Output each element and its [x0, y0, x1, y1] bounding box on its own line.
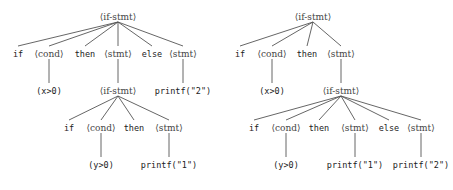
tree-edge — [254, 96, 341, 120]
tree-edge — [319, 96, 341, 120]
tree-edge — [286, 96, 341, 120]
tree-edge — [313, 22, 341, 46]
nonterminal-node: ⟨stmt⟩ — [104, 49, 131, 59]
nonterminal-node: ⟨if-stmt⟩ — [100, 12, 136, 22]
terminal-node: if — [13, 49, 23, 59]
parse-tree-diagram: ⟨if-stmt⟩if⟨cond⟩then⟨stmt⟩else⟨stmt⟩(x>… — [0, 0, 453, 190]
tree-edge — [49, 22, 118, 46]
terminal-node: then — [309, 123, 329, 133]
nonterminal-node: ⟨if-stmt⟩ — [295, 12, 331, 22]
terminal-node: (x>0) — [36, 86, 62, 96]
tree-edges — [18, 22, 421, 157]
tree-edge — [118, 22, 183, 46]
terminal-node: (y>0) — [273, 160, 299, 170]
tree-edge — [18, 22, 118, 46]
terminal-node: else — [379, 123, 399, 133]
terminal-node: else — [142, 49, 162, 59]
nonterminal-node: ⟨cond⟩ — [257, 49, 286, 59]
tree-edge — [272, 22, 313, 46]
nonterminal-node: ⟨stmt⟩ — [407, 123, 434, 133]
terminal-node: printf("2") — [393, 160, 449, 170]
terminal-node: if — [249, 123, 259, 133]
terminal-node: (x>0) — [259, 86, 285, 96]
tree-edge — [240, 22, 313, 46]
tree-edge — [101, 96, 118, 120]
terminal-node: printf("2") — [155, 86, 211, 96]
nonterminal-node: ⟨stmt⟩ — [155, 123, 182, 133]
terminal-node: printf("1") — [327, 160, 383, 170]
terminal-node: if — [64, 123, 74, 133]
nonterminal-node: ⟨cond⟩ — [271, 123, 300, 133]
tree-edge — [69, 96, 118, 120]
terminal-node: if — [235, 49, 245, 59]
terminal-node: then — [297, 49, 317, 59]
nonterminal-node: ⟨cond⟩ — [34, 49, 63, 59]
terminal-node: then — [75, 49, 95, 59]
tree-edge — [307, 22, 313, 46]
nonterminal-node: ⟨stmt⟩ — [341, 123, 368, 133]
nonterminal-node: ⟨stmt⟩ — [327, 49, 354, 59]
terminal-node: printf("1") — [141, 160, 197, 170]
nonterminal-node: ⟨cond⟩ — [86, 123, 115, 133]
nonterminal-node: ⟨if-stmt⟩ — [323, 86, 359, 96]
tree-edge — [118, 22, 152, 46]
nonterminal-node: ⟨stmt⟩ — [169, 49, 196, 59]
nonterminal-node: ⟨if-stmt⟩ — [100, 86, 136, 96]
terminal-node: (y>0) — [88, 160, 114, 170]
terminal-node: then — [124, 123, 144, 133]
